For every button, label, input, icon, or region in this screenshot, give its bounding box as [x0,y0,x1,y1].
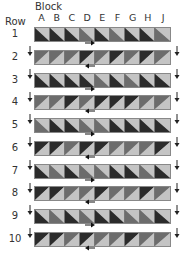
block-j-row-6 [155,142,170,155]
block-g-row-7 [125,165,140,178]
block-c-row-3 [65,74,80,87]
block-f-row-5 [110,119,125,132]
row-strip-4 [34,95,171,110]
block-c-row-2 [65,51,80,64]
row-label-9: 9 [4,210,26,221]
block-e-row-1 [95,28,110,41]
block-h-row-9 [140,210,155,223]
block-g-row-6 [125,142,140,155]
row-strip-2 [34,50,171,65]
row-label-6: 6 [4,142,26,153]
row-label-1: 1 [4,28,26,39]
block-c-row-5 [65,119,80,132]
column-label-d: D [80,12,95,23]
block-c-row-8 [65,187,80,200]
block-b-row-4 [50,96,65,109]
block-j-row-1 [155,28,170,41]
column-label-f: F [110,12,125,23]
right-down-arrow-icon [174,223,180,233]
left-down-arrow-icon [27,178,33,188]
block-a-row-9 [35,210,50,223]
block-g-row-4 [125,96,140,109]
arrow-right-icon [85,31,95,37]
block-g-row-5 [125,119,140,132]
block-a-row-2 [35,51,50,64]
block-a-row-1 [35,28,50,41]
arrow-right-icon [85,122,95,128]
block-g-row-9 [125,210,140,223]
block-h-row-10 [140,233,155,246]
block-f-row-6 [110,142,125,155]
block-h-row-2 [140,51,155,64]
block-b-row-10 [50,233,65,246]
block-j-row-10 [155,233,170,246]
left-down-arrow-icon [27,155,33,165]
block-b-row-2 [50,51,65,64]
block-f-row-1 [110,28,125,41]
right-down-arrow-icon [174,64,180,74]
block-b-row-5 [50,119,65,132]
block-a-row-7 [35,165,50,178]
block-h-row-8 [140,187,155,200]
block-g-row-10 [125,233,140,246]
block-g-row-8 [125,187,140,200]
block-f-row-8 [110,187,125,200]
block-f-row-3 [110,74,125,87]
block-a-row-5 [35,119,50,132]
block-h-row-7 [140,165,155,178]
block-f-row-4 [110,96,125,109]
left-down-arrow-icon [27,132,33,142]
arrow-right-icon [85,168,95,174]
block-e-row-9 [95,210,110,223]
row-strip-3 [34,73,171,88]
block-g-row-1 [125,28,140,41]
row-label-8: 8 [4,187,26,198]
left-down-arrow-icon [27,109,33,119]
arrow-right-icon [85,77,95,83]
column-label-h: H [140,12,155,23]
block-j-row-8 [155,187,170,200]
block-g-row-3 [125,74,140,87]
block-e-row-3 [95,74,110,87]
block-h-row-5 [140,119,155,132]
arrow-left-icon [85,145,95,151]
block-j-row-7 [155,165,170,178]
column-label-b: B [49,12,64,23]
block-b-row-9 [50,210,65,223]
block-a-row-6 [35,142,50,155]
row-label-7: 7 [4,165,26,176]
row-label-4: 4 [4,96,26,107]
row-strip-8 [34,186,171,201]
block-b-row-1 [50,28,65,41]
row-strip-7 [34,164,171,179]
row-strip-1 [34,27,171,42]
block-c-row-10 [65,233,80,246]
row-header: Row [5,16,26,27]
block-e-row-5 [95,119,110,132]
column-label-e: E [95,12,110,23]
column-label-g: G [125,12,140,23]
block-e-row-10 [95,233,110,246]
block-a-row-8 [35,187,50,200]
arrow-left-icon [85,54,95,60]
block-e-row-4 [95,96,110,109]
block-c-row-7 [65,165,80,178]
block-j-row-5 [155,119,170,132]
arrow-left-icon [85,236,95,242]
block-h-row-6 [140,142,155,155]
block-a-row-10 [35,233,50,246]
right-down-arrow-icon [174,109,180,119]
column-label-c: C [64,12,79,23]
block-b-row-8 [50,187,65,200]
block-h-row-4 [140,96,155,109]
row-strip-6 [34,141,171,156]
right-down-arrow-icon [174,87,180,97]
right-down-arrow-icon [174,41,180,51]
left-down-arrow-icon [27,223,33,233]
block-j-row-3 [155,74,170,87]
left-down-arrow-icon [27,64,33,74]
block-j-row-4 [155,96,170,109]
block-a-row-4 [35,96,50,109]
block-h-row-3 [140,74,155,87]
right-down-arrow-icon [174,200,180,210]
